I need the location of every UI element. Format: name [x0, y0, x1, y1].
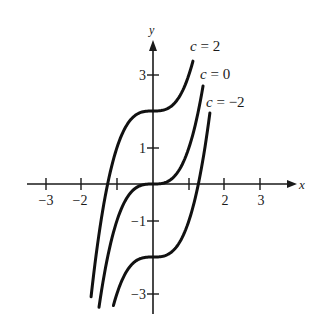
y-axis-label: y: [148, 23, 155, 37]
curve-c-minus-2: [113, 113, 209, 306]
x-tick-label-3: 3: [258, 193, 265, 208]
curve-label-c-minus-2: c = −2: [206, 94, 245, 110]
x-axis-arrow-icon: [287, 180, 297, 188]
curve-label-c-2: c = 2: [190, 38, 220, 54]
y-tick-label-1: 1: [139, 141, 146, 156]
curve-label-c-0: c = 0: [200, 66, 230, 82]
y-tick-label-3: 3: [139, 68, 146, 83]
x-tick-label-m2: −2: [73, 193, 88, 208]
x-axis-label: x: [298, 177, 305, 192]
y-tick-label-m1: −1: [131, 214, 146, 229]
y-tick-label-m3: −3: [131, 287, 146, 302]
x-tick-label-m3: −3: [39, 193, 54, 208]
x-tick-label-2: 2: [222, 193, 229, 208]
y-axis-arrow-icon: [149, 40, 157, 51]
y-axis: y 3 1 −1 −3: [131, 23, 159, 314]
cubic-family-chart: x −3 −2 2 3 y 3 1 −1 −3 c = 2 c = 0 c = …: [0, 0, 321, 330]
curve-labels: c = 2 c = 0 c = −2: [190, 38, 245, 110]
curve-c-0: [99, 86, 203, 307]
